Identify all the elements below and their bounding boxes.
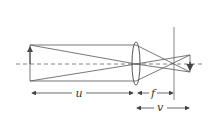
label-v: v (157, 101, 164, 114)
label-u: u (75, 87, 82, 100)
incident-rays (30, 45, 136, 81)
label-f: f (150, 87, 157, 100)
refracted-rays (136, 45, 190, 81)
lens-diagram: u f v (0, 0, 213, 118)
